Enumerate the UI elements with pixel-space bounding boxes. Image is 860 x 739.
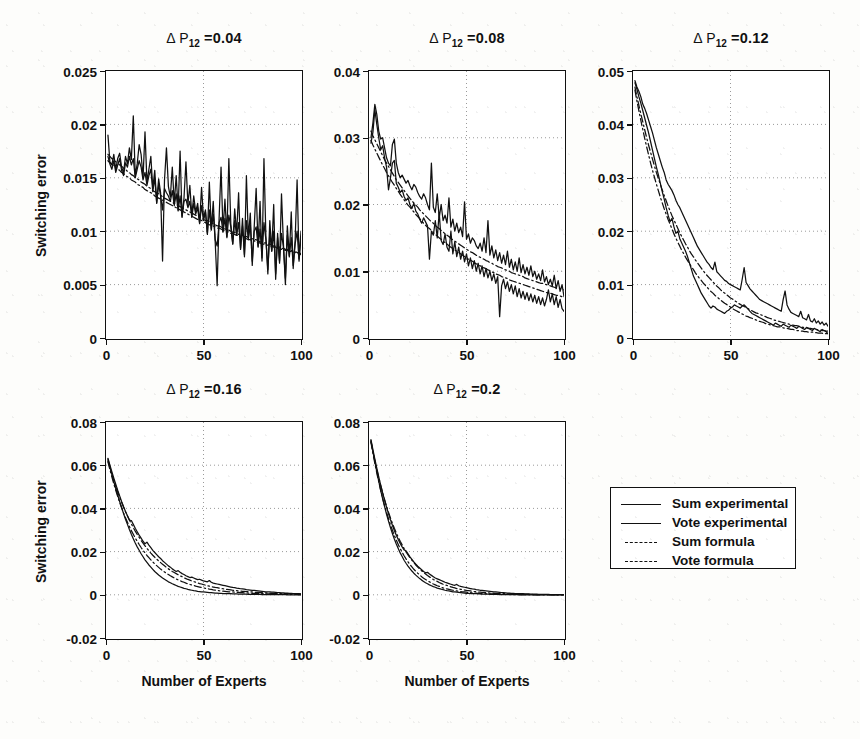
x-axis-tick-label: 100 — [290, 348, 313, 363]
y-axis-tick-label: 0 — [352, 331, 360, 346]
x-tick-mark — [466, 340, 467, 345]
y-axis-tick-label: 0.06 — [71, 458, 97, 473]
y-axis-tick-label: 0.01 — [71, 224, 97, 239]
series-line — [371, 110, 564, 317]
y-tick-mark — [363, 508, 368, 509]
x-axis-label: Number of Experts — [105, 673, 303, 689]
subplot-title: Δ P12 =0.04 — [105, 30, 303, 49]
y-tick-mark — [100, 552, 105, 553]
x-tick-mark — [633, 340, 634, 345]
subplot-title: Δ P12 =0.12 — [632, 30, 830, 49]
y-tick-mark — [100, 285, 105, 286]
y-axis-tick-label: 0 — [89, 588, 97, 603]
series-line — [635, 90, 828, 334]
x-tick-mark — [564, 340, 565, 345]
series-line — [108, 116, 301, 286]
legend-item-label: Sum formula — [672, 535, 755, 549]
y-axis-tick-label: 0.015 — [63, 171, 97, 186]
y-tick-mark — [100, 178, 105, 179]
series-line — [108, 458, 301, 594]
legend-item: Vote formula — [619, 551, 785, 570]
y-tick-mark — [363, 138, 368, 139]
x-tick-mark — [301, 640, 302, 645]
series-line — [371, 104, 564, 296]
y-axis-tick-label: 0.02 — [334, 545, 360, 560]
x-axis-tick-label: 0 — [630, 348, 638, 363]
x-tick-mark — [828, 340, 829, 345]
x-axis-tick-label: 100 — [553, 648, 576, 663]
legend-item-label: Vote formula — [672, 554, 754, 568]
y-axis-tick-label: 0.04 — [334, 501, 360, 516]
y-axis-tick-label: 0.04 — [71, 501, 97, 516]
y-tick-mark — [363, 465, 368, 466]
y-axis-tick-label: 0 — [616, 331, 624, 346]
y-axis-tick-label: 0 — [352, 588, 360, 603]
series-line — [108, 462, 301, 595]
y-tick-mark — [100, 338, 105, 339]
curve-layer — [106, 422, 301, 638]
x-axis-tick-label: 50 — [196, 348, 211, 363]
subplot-title: Δ P12 =0.08 — [368, 30, 566, 49]
y-tick-mark — [363, 595, 368, 596]
legend-line-swatch — [619, 498, 663, 510]
legend-line-swatch — [619, 555, 663, 567]
y-tick-mark — [627, 124, 632, 125]
plot-area — [105, 70, 303, 340]
y-axis-tick-label: 0.01 — [334, 264, 360, 279]
plot-area — [632, 70, 830, 340]
curve-layer — [369, 422, 564, 638]
y-tick-mark — [100, 231, 105, 232]
y-axis-tick-label: -0.02 — [329, 631, 360, 646]
y-tick-mark — [363, 338, 368, 339]
y-tick-mark — [627, 71, 632, 72]
x-tick-mark — [369, 340, 370, 345]
y-tick-mark — [363, 422, 368, 423]
x-axis-tick-label: 0 — [366, 648, 374, 663]
x-tick-mark — [106, 640, 107, 645]
y-tick-mark — [100, 71, 105, 72]
series-line — [108, 156, 301, 278]
x-tick-mark — [730, 340, 731, 345]
y-axis-label: Switching error — [33, 154, 49, 257]
y-axis-tick-label: 0.04 — [598, 117, 624, 132]
y-axis-tick-label: 0.05 — [598, 64, 624, 79]
legend-item: Sum experimental — [619, 494, 785, 513]
x-tick-mark — [301, 340, 302, 345]
y-axis-tick-label: 0.08 — [71, 415, 97, 430]
y-axis-tick-label: 0.03 — [598, 171, 624, 186]
x-axis-tick-label: 100 — [290, 648, 313, 663]
y-axis-tick-label: 0.02 — [334, 198, 360, 213]
plot-area — [105, 421, 303, 640]
x-axis-tick-label: 50 — [459, 648, 474, 663]
curve-layer — [106, 71, 301, 338]
y-axis-tick-label: 0.02 — [598, 224, 624, 239]
legend-item: Vote experimental — [619, 513, 785, 532]
y-tick-mark — [100, 465, 105, 466]
legend-line-swatch — [619, 517, 663, 529]
y-tick-mark — [627, 231, 632, 232]
legend-item-label: Sum experimental — [672, 497, 788, 511]
series-line — [108, 461, 301, 594]
y-axis-tick-label: 0.03 — [334, 131, 360, 146]
x-axis-tick-label: 100 — [553, 348, 576, 363]
y-axis-tick-label: -0.02 — [66, 631, 97, 646]
legend-item-label: Vote experimental — [672, 516, 787, 530]
series-line — [108, 459, 301, 595]
y-tick-mark — [363, 204, 368, 205]
y-tick-mark — [363, 71, 368, 72]
subplot-title: Δ P12 =0.16 — [105, 381, 303, 400]
series-line — [371, 441, 564, 594]
x-axis-tick-label: 100 — [817, 348, 840, 363]
y-tick-mark — [100, 638, 105, 639]
x-tick-mark — [203, 340, 204, 345]
y-axis-tick-label: 0.005 — [63, 278, 97, 293]
series-line — [371, 131, 564, 290]
y-tick-mark — [100, 595, 105, 596]
y-axis-label: Switching error — [33, 480, 49, 583]
y-axis-tick-label: 0.06 — [334, 458, 360, 473]
plot-area — [368, 421, 566, 640]
x-tick-mark — [203, 640, 204, 645]
y-tick-mark — [627, 285, 632, 286]
y-axis-tick-label: 0.025 — [63, 64, 97, 79]
legend-item: Sum formula — [619, 532, 785, 551]
